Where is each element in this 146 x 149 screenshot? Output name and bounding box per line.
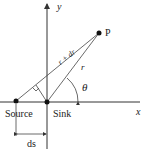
x-axis-label: x	[135, 106, 141, 117]
ds-label: ds	[27, 138, 36, 149]
perpendicular-line	[36, 85, 47, 102]
source-sink-diagram: y x P Source Sink r + dr r θ ds	[0, 0, 146, 149]
source-point	[14, 99, 19, 104]
r-label: r	[81, 62, 85, 72]
y-axis-label: y	[56, 1, 62, 12]
point-p	[97, 31, 102, 36]
sink-label: Sink	[53, 108, 71, 119]
point-p-label: P	[105, 27, 111, 38]
line-sink-to-p	[47, 33, 99, 102]
r-plus-dr-label: r + dr	[56, 47, 78, 67]
theta-label: θ	[82, 81, 88, 93]
sink-point	[45, 100, 50, 105]
right-angle-marker	[33, 88, 39, 91]
source-label: Source	[5, 108, 33, 119]
theta-arc	[67, 78, 78, 102]
